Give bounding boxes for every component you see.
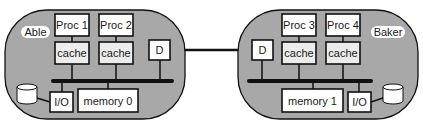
memory-0-box: memory 0 — [78, 89, 138, 112]
cache-1-label: cache — [57, 47, 86, 59]
cache-3-box: cache — [282, 42, 316, 64]
io-able-label: I/O — [54, 96, 69, 108]
cluster-diagram: Able Proc 1 Proc 2 cache — [0, 0, 423, 124]
directory-able-label: D — [156, 44, 164, 56]
cluster-able-label: Able — [24, 26, 46, 38]
proc-4-box: Proc 4 — [326, 14, 360, 36]
directory-baker-box: D — [252, 40, 273, 60]
memory-1-label: memory 1 — [288, 95, 337, 107]
disk-icon — [17, 84, 37, 104]
proc-3-box: Proc 3 — [282, 14, 316, 36]
cluster-able: Able Proc 1 Proc 2 cache — [5, 10, 185, 119]
memory-0-label: memory 0 — [84, 95, 133, 107]
disk-icon — [383, 84, 403, 104]
proc-2-box: Proc 2 — [99, 14, 133, 36]
cache-3-label: cache — [284, 47, 313, 59]
proc-4-label: Proc 4 — [327, 19, 359, 31]
proc-2-label: Proc 2 — [100, 19, 132, 31]
proc-1-box: Proc 1 — [55, 14, 89, 36]
directory-able-box: D — [149, 40, 170, 60]
directory-baker-label: D — [259, 44, 267, 56]
cache-2-box: cache — [99, 42, 133, 64]
cache-4-label: cache — [328, 47, 357, 59]
cluster-baker: Baker D Proc 3 Proc 4 cache — [238, 10, 418, 119]
cache-2-label: cache — [101, 47, 130, 59]
proc-1-label: Proc 1 — [56, 19, 88, 31]
cache-4-box: cache — [326, 42, 360, 64]
cluster-able-bus — [51, 79, 174, 83]
memory-1-box: memory 1 — [282, 89, 343, 112]
cluster-baker-bus — [247, 79, 373, 83]
io-baker-label: I/O — [352, 96, 367, 108]
io-baker-box: I/O — [348, 92, 371, 112]
proc-3-label: Proc 3 — [283, 19, 315, 31]
cluster-baker-label: Baker — [374, 26, 403, 38]
io-able-box: I/O — [50, 92, 73, 112]
cache-1-box: cache — [55, 42, 89, 64]
